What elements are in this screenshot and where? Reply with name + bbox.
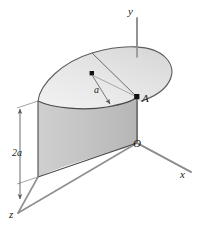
height-ext-line-top	[17, 101, 38, 108]
z-axis-label: z	[9, 209, 13, 220]
origin-label: O	[133, 138, 141, 149]
solid-body	[38, 47, 172, 177]
radius-dimension-label: a	[94, 85, 99, 95]
y-axis-label: y	[128, 6, 133, 17]
figure-container: y x z O A a 2a	[0, 0, 203, 229]
arc-center-marker	[90, 71, 94, 75]
point-a-label: A	[142, 93, 149, 104]
point-a-marker	[134, 94, 139, 99]
x-axis-label: x	[180, 169, 185, 180]
height-dimension-label: 2a	[12, 148, 22, 158]
solid-geometry-diagram	[0, 0, 203, 229]
top-semicircular-surface	[38, 47, 172, 109]
